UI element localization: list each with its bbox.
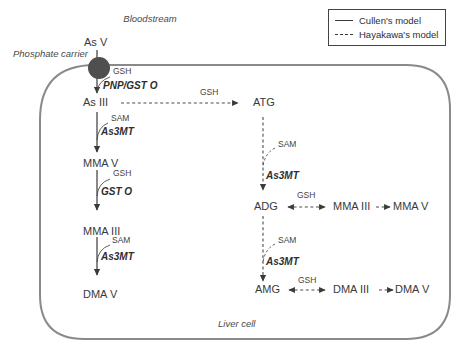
legend-item-hayakawa: Hayakawa's model — [335, 27, 441, 41]
node-atg: ATG — [253, 96, 275, 108]
cofactor-gsh: GSH — [200, 88, 218, 97]
node-dma-v: DMA V — [83, 288, 117, 300]
cofactor-gsh: GSH — [113, 67, 131, 76]
arsenic-metabolism-diagram: Bloodstream Phosphate carrier Liver cell… — [0, 0, 460, 356]
legend-item-cullen: Cullen's model — [335, 13, 441, 27]
node-mma-iii-right: MMA III — [333, 200, 370, 212]
cofactor-sam: SAM — [112, 236, 130, 245]
enzyme-pnp-gst-o: PNP/GST O — [103, 80, 157, 91]
phosphate-carrier-label: Phosphate carrier — [13, 49, 88, 59]
solid-line-sample — [335, 20, 353, 21]
cofactor-sam: SAM — [278, 236, 296, 245]
cofactor-gsh: GSH — [297, 191, 315, 200]
node-as-v: As V — [84, 36, 107, 48]
dashed-line-sample — [335, 34, 353, 35]
sam-branch-curve-dashed — [263, 148, 275, 166]
enzyme-gst-o: GST O — [101, 186, 132, 197]
enzyme-as3mt: As3MT — [101, 126, 134, 137]
node-mma-v-right: MMA V — [393, 200, 428, 212]
cofactor-sam: SAM — [111, 114, 129, 123]
enzyme-as3mt: As3MT — [101, 251, 134, 262]
cofactor-gsh: GSH — [113, 169, 131, 178]
phosphate-carrier-circle — [88, 57, 110, 79]
legend-label: Cullen's model — [359, 15, 421, 26]
node-as-iii: As III — [83, 96, 108, 108]
node-dma-v-right: DMA V — [395, 283, 429, 295]
legend-label: Hayakawa's model — [359, 29, 438, 40]
node-dma-iii: DMA III — [333, 283, 369, 295]
enzyme-as3mt: As3MT — [266, 170, 299, 181]
enzyme-as3mt: As3MT — [266, 256, 299, 267]
node-amg: AMG — [255, 283, 280, 295]
node-adg: ADG — [254, 200, 278, 212]
cofactor-gsh: GSH — [298, 276, 316, 285]
cofactor-sam: SAM — [278, 140, 296, 149]
bloodstream-label: Bloodstream — [108, 14, 192, 24]
liver-cell-label: Liver cell — [218, 319, 256, 329]
legend-box: Cullen's model Hayakawa's model — [328, 9, 446, 46]
